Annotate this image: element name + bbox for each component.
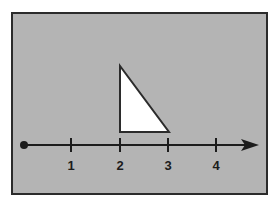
tick-label-2: 2 [116, 158, 123, 173]
tick-label-4: 4 [212, 158, 220, 173]
tick-label-3: 3 [164, 158, 171, 173]
figure-container: 1 2 3 4 [0, 0, 277, 209]
tick-label-1: 1 [67, 158, 74, 173]
origin-dot [20, 141, 28, 149]
number-line-figure: 1 2 3 4 [0, 0, 277, 209]
